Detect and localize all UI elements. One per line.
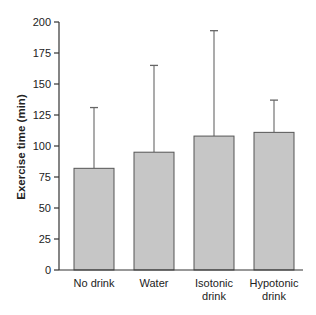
x-category-label: drink [202, 290, 226, 302]
bar-chart: 0255075100125150175200 No drinkWaterIsot… [0, 0, 316, 315]
y-tick-label: 25 [39, 233, 51, 245]
y-tick-label: 200 [33, 16, 51, 28]
x-category-label: Water [140, 277, 169, 289]
x-category-label: Isotonic [195, 277, 233, 289]
bar [134, 152, 174, 270]
y-tick-label: 100 [33, 140, 51, 152]
y-tick-label: 0 [45, 264, 51, 276]
x-axis-labels: No drinkWaterIsotonicdrinkHypotonicdrink [74, 277, 299, 302]
y-tick-label: 50 [39, 202, 51, 214]
x-category-label: No drink [74, 277, 115, 289]
y-tick-label: 75 [39, 171, 51, 183]
x-category-label: Hypotonic [250, 277, 299, 289]
x-category-label: drink [262, 290, 286, 302]
y-tick-label: 175 [33, 47, 51, 59]
y-axis-label: Exercise time (min) [15, 94, 27, 200]
y-axis-ticks: 0255075100125150175200 [33, 16, 59, 276]
bar [194, 136, 234, 270]
bar [74, 168, 114, 270]
bars [74, 31, 294, 270]
y-tick-label: 125 [33, 109, 51, 121]
bar [254, 132, 294, 270]
y-tick-label: 150 [33, 78, 51, 90]
